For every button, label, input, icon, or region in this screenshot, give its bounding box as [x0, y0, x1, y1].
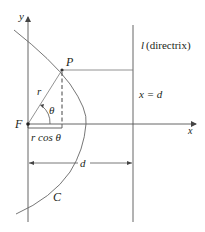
point-p — [60, 68, 63, 71]
focus-label: F — [14, 117, 23, 131]
curve-label: C — [53, 190, 62, 204]
directrix-suffix-label: (directrix) — [146, 39, 191, 52]
directrix-name-label: l — [141, 39, 144, 51]
angle-label: θ — [49, 104, 55, 116]
distance-label: d — [80, 157, 86, 169]
conic-diagram: y x P F r θ r cos θ d C l (directrix) x … — [0, 0, 205, 232]
x-axis-label: x — [187, 125, 193, 136]
rcos-bracket — [28, 124, 62, 128]
radius-line — [28, 70, 62, 124]
projection-label: r cos θ — [31, 131, 61, 143]
focus-point — [26, 122, 30, 126]
directrix-equation-label: x = d — [138, 88, 163, 100]
y-axis-label: y — [18, 10, 24, 22]
point-p-label: P — [65, 55, 74, 69]
radius-label: r — [37, 85, 42, 97]
